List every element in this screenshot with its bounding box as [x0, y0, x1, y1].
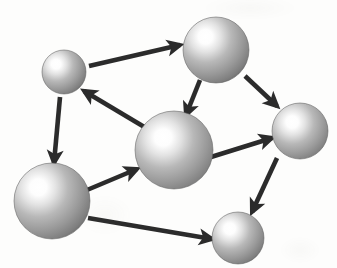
edge-arrow — [88, 218, 212, 239]
sphere-icon — [14, 163, 90, 239]
edge-arrow — [89, 45, 180, 66]
edge-arrow — [252, 158, 277, 212]
edge-bottom-left-to-center — [87, 169, 137, 190]
bottom-right-small-node — [212, 212, 264, 264]
edge-arrow — [245, 76, 277, 106]
edge-arrow — [211, 138, 272, 157]
sphere-icon — [135, 111, 213, 189]
edge-top-left-to-bottom-left — [54, 97, 60, 163]
right-medium-node — [272, 103, 328, 159]
graph-canvas — [0, 0, 337, 268]
nodes-layer — [14, 17, 328, 264]
sphere-icon — [212, 212, 264, 264]
graph-diagram — [0, 0, 337, 268]
edge-arrow — [186, 80, 200, 115]
edge-top-right-to-center — [186, 80, 200, 115]
edge-arrow — [87, 169, 137, 190]
sphere-icon — [42, 50, 86, 94]
edge-center-to-top-left — [84, 91, 146, 128]
edge-bottom-left-to-bottom-right — [88, 218, 212, 239]
edge-arrow — [54, 97, 60, 163]
top-left-small-node — [42, 50, 86, 94]
edge-arrow — [84, 91, 146, 128]
edge-top-right-to-right — [245, 76, 277, 106]
edge-top-left-to-top-right — [89, 45, 180, 66]
top-right-large-node — [183, 17, 249, 83]
center-large-node — [135, 111, 213, 189]
edge-right-to-bottom-right — [252, 158, 277, 212]
bottom-left-large-node — [14, 163, 90, 239]
edge-center-to-right — [211, 138, 272, 157]
sphere-icon — [272, 103, 328, 159]
sphere-icon — [183, 17, 249, 83]
